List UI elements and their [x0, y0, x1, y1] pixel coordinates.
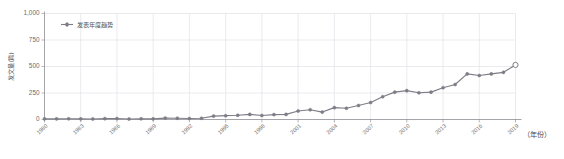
- series-marker-point: [429, 91, 432, 94]
- series-marker-point: [417, 91, 420, 94]
- chart-canvas: 02505007501,000 198019831986198919921995…: [0, 0, 564, 159]
- series-marker-point: [188, 117, 191, 120]
- series-marker-point: [478, 74, 481, 77]
- series-marker-point: [176, 117, 179, 120]
- x-axis-unit-label: （年份）: [523, 130, 551, 139]
- series-marker-point: [67, 117, 70, 120]
- series-marker-point: [248, 113, 251, 116]
- series-marker-point: [333, 106, 336, 109]
- series-marker-point: [381, 95, 384, 98]
- series-marker-point: [91, 117, 94, 120]
- series-marker-point: [127, 117, 130, 120]
- y-tick-label: 250: [29, 89, 40, 96]
- series-marker-point: [405, 89, 408, 92]
- series-marker-point: [321, 111, 324, 114]
- series-marker-point: [357, 104, 360, 107]
- series-marker-point: [115, 117, 118, 120]
- series-marker-point: [490, 72, 493, 75]
- series-marker-point: [79, 117, 82, 120]
- series-marker-point: [345, 107, 348, 110]
- series-marker-point: [55, 117, 58, 120]
- legend-label: 发表年度趋势: [77, 21, 113, 29]
- series-marker-point: [272, 113, 275, 116]
- series-marker-last-point: [513, 62, 518, 67]
- y-tick-label: 1,000: [24, 9, 40, 16]
- publication-trend-chart: 02505007501,000 198019831986198919921995…: [0, 0, 564, 159]
- series-marker-point: [297, 109, 300, 112]
- series-marker-point: [441, 86, 444, 89]
- series-marker-point: [140, 117, 143, 120]
- y-tick-label: 500: [29, 62, 40, 69]
- series-marker-point: [43, 117, 46, 120]
- series-marker-point: [466, 72, 469, 75]
- series-marker-point: [212, 115, 215, 118]
- series-marker-point: [200, 117, 203, 120]
- series-marker-point: [454, 83, 457, 86]
- series-marker-point: [103, 117, 106, 120]
- series-marker-point: [224, 114, 227, 117]
- series-marker-point: [284, 113, 287, 116]
- series-marker-point: [309, 108, 312, 111]
- series-marker-point: [369, 101, 372, 104]
- series-marker-point: [502, 71, 505, 74]
- series-marker-point: [152, 117, 155, 120]
- series-marker-point: [393, 91, 396, 94]
- y-axis-title: 发文量(篇): [7, 52, 15, 80]
- series-marker-point: [164, 117, 167, 120]
- y-tick-label: 750: [29, 36, 40, 43]
- series-marker-point: [260, 114, 263, 117]
- y-tick-label: 0: [36, 115, 40, 122]
- series-marker-point: [236, 114, 239, 117]
